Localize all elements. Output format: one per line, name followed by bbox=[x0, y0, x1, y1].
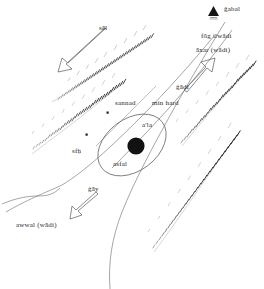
label-sannad: sannad bbox=[115, 100, 136, 107]
label-axar-wadi: āxar (wādi) bbox=[196, 47, 230, 54]
label-asfal: asfal bbox=[113, 161, 127, 168]
valley-lines bbox=[2, 22, 232, 289]
label-sfh: sfḥ bbox=[72, 148, 81, 155]
label-gadi: ġādi bbox=[176, 84, 189, 91]
sel-arrow bbox=[58, 28, 106, 72]
ridge-hachure-right-lower bbox=[148, 123, 240, 252]
mountain-triangle-icon bbox=[208, 6, 219, 19]
ridge-hachure-right-upper bbox=[176, 55, 256, 146]
label-fog-ilwadi: fōg ilwādi bbox=[201, 33, 232, 40]
wadi-schematic-map: ǧabal fōg ilwādi āxar (wādi) ġādi sēl sa… bbox=[0, 0, 264, 289]
label-sel: sēl bbox=[99, 25, 107, 32]
map-drawing bbox=[0, 0, 264, 289]
label-ala: a'la bbox=[142, 122, 152, 129]
ridge-hachure-top-left-upper bbox=[52, 25, 154, 102]
village-dot bbox=[127, 137, 144, 154]
marker-dots bbox=[86, 112, 109, 136]
legend-label-gabal: ǧabal bbox=[224, 6, 240, 13]
gay-arrow bbox=[70, 192, 98, 219]
wadi-axis-line bbox=[6, 36, 214, 212]
valley-line-secondary-right bbox=[96, 86, 156, 146]
label-awwal-wadi: awwal (wādi) bbox=[16, 222, 57, 229]
label-min-hard: min hard bbox=[152, 100, 179, 107]
label-gay: ġāy bbox=[88, 186, 99, 193]
valley-line-lower-left bbox=[2, 188, 60, 204]
